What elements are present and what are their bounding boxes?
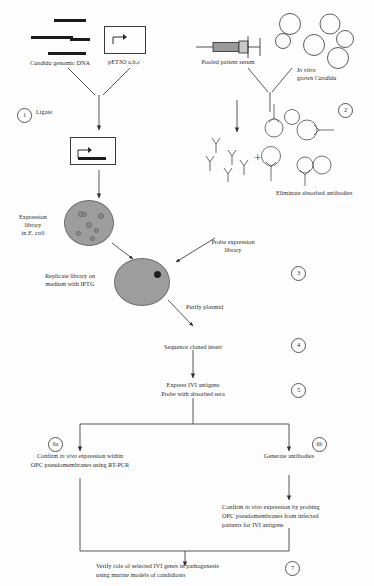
express-antigens-line1: Express IVI antigens [143, 381, 243, 389]
probe-library-line2: library [194, 246, 272, 254]
replicate-label-line1: Replicate library on [28, 272, 112, 280]
plasmid-label: pET3O a,b,c [98, 58, 150, 66]
positive-clone-colony [154, 271, 161, 278]
line-plasmid-to-ligate [103, 68, 130, 95]
connector-layer [0, 0, 374, 586]
colony [98, 213, 104, 219]
step-badge-6b: 6b [312, 437, 327, 452]
dna-fragment [48, 52, 86, 55]
probe-library-line1: Probe expression [194, 238, 272, 246]
colony [94, 228, 99, 233]
eliminate-absorbed-label: Eliminate absorbed antibodies [276, 189, 352, 197]
expression-library-line1: Expression [8, 213, 58, 221]
candida-cell [276, 34, 291, 49]
plus-sign: + [254, 150, 261, 166]
ligated-construct-box [70, 137, 116, 165]
purify-plasmid-label: Purify plasmid [186, 303, 223, 311]
express-antigens-line2: Probe with absorbed sera [143, 390, 243, 398]
absorbed-antibody-group [262, 104, 335, 186]
absorbed-unit [262, 147, 281, 182]
absorbed-unit [285, 110, 335, 141]
candida-cell [328, 48, 349, 69]
absorbed-unit [265, 104, 283, 137]
pooled-serum-label: Pooled patient serum [188, 58, 268, 66]
line-candida-to-absorb [272, 68, 292, 92]
step-badge-1: 1 [17, 108, 32, 123]
genomic-dna-label: Candida genomic DNA [8, 59, 112, 67]
step-badge-4: 4 [291, 338, 306, 353]
verify-role-line2: using murine models of candidiasis [96, 571, 185, 579]
candida-cell [304, 35, 325, 56]
dna-fragment [54, 19, 86, 22]
cloned-insert [78, 157, 106, 160]
replicate-label-line2: medium with IPTG [28, 280, 112, 288]
confirm-probe-line3: patients for IVI antigens [222, 521, 284, 529]
candida-cell [320, 14, 340, 34]
syringe-icon [196, 36, 260, 58]
colony [76, 231, 81, 236]
expression-library-line2: library [8, 221, 58, 229]
invitro-candida-line2: grown Candida [297, 74, 336, 82]
diagram-canvas: Candida genomic DNA pET3O a,b,c 1 Ligate… [0, 0, 374, 586]
step-badge-7: 7 [285, 561, 300, 576]
line-serum-to-absorb [248, 68, 268, 92]
confirm-rtpcr-line1: Confirm in vivo expression within [4, 452, 156, 460]
invitro-candida-line1: In vitro [297, 66, 316, 74]
step-badge-6a: 6a [48, 437, 63, 452]
absorbed-unit [297, 156, 331, 186]
confirm-rtpcr-line2: OPC pseudomembranes using RT-PCR [4, 461, 156, 469]
ligate-label: Ligate [36, 108, 52, 116]
confirm-probe-line1: Confirm in vivo expression by probing [222, 503, 320, 511]
step-badge-2: 2 [338, 103, 353, 118]
colony [82, 212, 87, 217]
replicate-library-plate [114, 258, 170, 306]
step-badge-5: 5 [291, 383, 306, 398]
plasmid-vector-box [104, 26, 146, 54]
verify-role-line1: Verify role of selected IVI genes in pat… [96, 562, 219, 570]
sequence-insert-label: Sequence cloned insert [143, 343, 243, 351]
candida-cell [280, 14, 301, 35]
line-dna-to-ligate [68, 68, 95, 95]
expression-library-line3: in E. coli [8, 229, 58, 237]
dna-fragment [70, 38, 90, 41]
candida-cell-group [276, 14, 354, 69]
generate-antibodies-label: Generate antibodies [240, 452, 338, 460]
arrow-replicate [112, 243, 133, 259]
candida-cell [337, 31, 354, 48]
antibody-group [206, 138, 248, 182]
colony [86, 222, 92, 228]
step-badge-3: 3 [291, 266, 306, 281]
dna-fragment [31, 36, 73, 39]
confirm-probe-line2: OPC pseudomembranes from infected [222, 512, 318, 520]
